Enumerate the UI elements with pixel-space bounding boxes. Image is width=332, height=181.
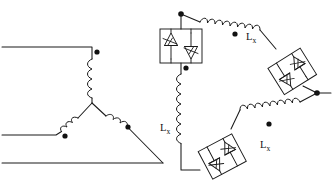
reactor-top-label: Lx [246,31,256,45]
wye-connected-winding-group [2,47,163,163]
reactor-top-right-lead [260,30,276,49]
circuit-schematic: Lx Lx [0,0,332,181]
reactor-top: Lx [181,14,276,49]
reactor-bottom-label: Lx [260,139,270,153]
reactor-bottom-coil [240,98,300,110]
winding-c-lower-lead [127,127,163,164]
thyristor-left-up [163,33,178,59]
thyristor-right-down [184,33,198,59]
reactor-top-left-lead [181,14,200,22]
thyristor-right-pair-lower-lead [279,66,285,76]
thyristor-bottom-pair-lower-lead [209,151,214,161]
winding-b-lower-lead [2,132,62,136]
reactor-left-label: Lx [160,122,170,136]
phase-a-bus-line [2,47,92,59]
thyristor-right-pair-upper-lead [300,67,306,77]
thyristor-pair-bottom[interactable] [198,134,246,179]
reactor-top-polarity-dot [232,31,237,36]
thyristor-pair-right[interactable] [268,48,317,94]
diagram-canvas: Lx Lx [0,0,332,181]
thyristor-pair-bottom-frame [198,134,246,179]
reactor-left-lower-lead [181,144,200,171]
thyristor-bottom-pair-lower [203,147,226,174]
thyristor-branch-rails [171,29,191,63]
winding-c-polarity-dot [125,124,130,129]
delta-tcr-group: Lx Lx [160,11,331,179]
reactor-bottom: Lx [231,93,317,153]
winding-b-coil [60,117,78,131]
reactor-top-coil [200,18,260,30]
thyristor-bottom-pair-upper [219,139,242,166]
reactor-bottom-polarity-dot [266,121,271,126]
thyristor-right-pair-lower [273,63,297,90]
winding-b-polarity-dot [62,133,67,138]
thyristor-pair-frame [160,29,202,63]
winding-c-coil [106,114,127,126]
reactor-left-coil [177,74,182,144]
reactor-left: Lx [160,74,200,170]
thyristor-bottom-pair-upper-triangle [219,139,235,155]
star-point-lead-b [78,103,92,118]
left-branch-node-dot [183,65,188,70]
reactor-bottom-right-lead [300,93,317,102]
thyristor-pair-upper-left[interactable] [160,29,202,63]
winding-a-coil [88,59,93,98]
winding-a-polarity-dot [94,49,99,54]
thyristor-bottom-pair-upper-lead [230,152,235,162]
thyristor-right-pair-upper [288,53,312,80]
reactor-bottom-left-lead [231,110,240,129]
star-point-lead-c [92,103,106,116]
